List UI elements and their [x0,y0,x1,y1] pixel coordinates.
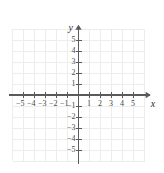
y-tick-label: 2 [72,69,76,77]
x-tick-label: −5 [16,100,25,108]
x-tick-label: 1 [87,100,91,108]
y-axis-label: y [69,23,73,33]
axis-arrowheads [75,25,150,98]
axis-lines [9,28,150,164]
x-tick-label: −4 [27,100,36,108]
y-tick-label: −3 [67,124,76,132]
y-axis-arrowhead [75,25,81,30]
x-tick-label: 4 [120,100,124,108]
x-axis-arrowhead [146,92,151,98]
x-tick-label: −2 [49,100,58,108]
y-tick-label: 5 [72,36,76,44]
x-axis-label: x [151,99,155,109]
y-tick-label: 4 [72,47,76,55]
y-tick-label: −4 [67,135,76,143]
y-tick-label: −2 [67,113,76,121]
y-tick-label: −5 [67,146,76,154]
x-tick-label: −3 [38,100,47,108]
x-tick-label: 5 [131,100,135,108]
x-tick-label: 3 [109,100,113,108]
x-tick-label: 2 [98,100,102,108]
coordinate-plane-figure: −5−4−3−2−112345 54321−1−2−3−4−5 x y [0,0,164,173]
y-tick-label: −1 [67,102,76,110]
y-tick-label: 1 [72,80,76,88]
y-tick-label: 3 [72,58,76,66]
coordinate-plane-svg [0,0,164,173]
